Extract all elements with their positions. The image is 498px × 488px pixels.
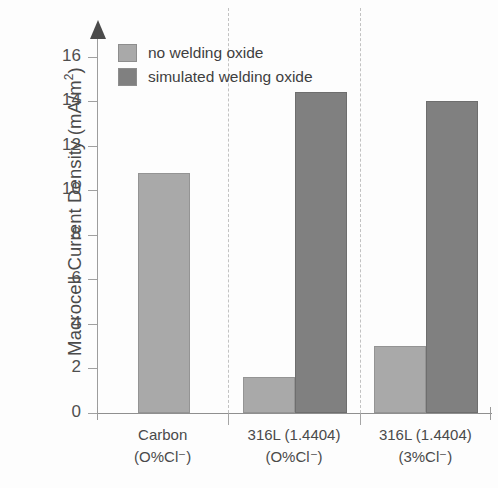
bar-chart-figure: Macrocell Current Density (mA/m2) 024681…	[0, 0, 498, 488]
y-axis-tick: 6	[88, 279, 97, 280]
y-axis-tick-label: 8	[72, 224, 81, 244]
bar-simulated-welding-oxide-group-2	[295, 92, 347, 413]
y-axis-tick: 12	[88, 146, 97, 147]
legend-label-no-welding-oxide: no welding oxide	[148, 44, 263, 62]
legend-item-simulated-welding-oxide: simulated welding oxide	[118, 68, 313, 86]
bars-layer	[98, 30, 492, 413]
chart-legend: no welding oxide simulated welding oxide	[118, 44, 313, 86]
x-axis-category-label-line1: 316L (1.4404)	[248, 426, 341, 443]
x-axis-category-label-line2: (O%Cl⁻)	[228, 446, 359, 468]
y-axis-tick: 16	[88, 57, 97, 58]
bar-no-welding-oxide-group-1	[138, 173, 190, 413]
x-axis-category-label-line1: Carbon	[138, 426, 187, 443]
x-axis-category-label-line2: (O%Cl⁻)	[97, 446, 228, 468]
x-axis-category-label: 316L (1.4404)(3%Cl⁻)	[360, 424, 491, 468]
y-axis-tick-label: 10	[62, 179, 81, 199]
y-axis-tick-label: 12	[62, 135, 81, 155]
y-axis-tick-label: 4	[72, 313, 81, 333]
plot-area: 0246810121416	[97, 30, 492, 413]
bar-no-welding-oxide-group-3	[374, 346, 426, 413]
legend-item-no-welding-oxide: no welding oxide	[118, 44, 313, 62]
y-axis-title-exponent: 2	[62, 74, 76, 81]
legend-swatch-icon-dark	[118, 68, 137, 86]
x-axis-category-labels: Carbon(O%Cl⁻)316L (1.4404)(O%Cl⁻)316L (1…	[97, 424, 492, 484]
y-axis-title-suffix: )	[64, 67, 85, 73]
y-axis-tick-label: 0	[72, 402, 81, 422]
y-axis-title: Macrocell Current Density (mA/m2)	[62, 32, 85, 392]
x-axis-category-label: 316L (1.4404)(O%Cl⁻)	[228, 424, 359, 468]
x-axis-category-label: Carbon(O%Cl⁻)	[97, 424, 228, 468]
y-axis-tick: 10	[88, 190, 97, 191]
y-axis-tick-label: 14	[62, 90, 81, 110]
y-axis-tick: 0	[88, 413, 97, 414]
legend-label-simulated-welding-oxide: simulated welding oxide	[148, 68, 313, 86]
x-axis-category-label-line2: (3%Cl⁻)	[360, 446, 491, 468]
bar-no-welding-oxide-group-2	[243, 377, 295, 413]
y-axis-tick-label: 2	[72, 357, 81, 377]
y-axis-tick: 2	[88, 368, 97, 369]
y-axis-tick: 14	[88, 101, 97, 102]
legend-swatch-icon-light	[118, 44, 137, 62]
bar-simulated-welding-oxide-group-3	[426, 101, 478, 413]
y-axis-tick-label: 16	[62, 46, 81, 66]
x-axis-line	[97, 413, 492, 414]
y-axis-tick: 8	[88, 235, 97, 236]
y-axis-tick: 4	[88, 324, 97, 325]
y-axis-tick-label: 6	[72, 268, 81, 288]
x-axis-category-label-line1: 316L (1.4404)	[379, 426, 472, 443]
